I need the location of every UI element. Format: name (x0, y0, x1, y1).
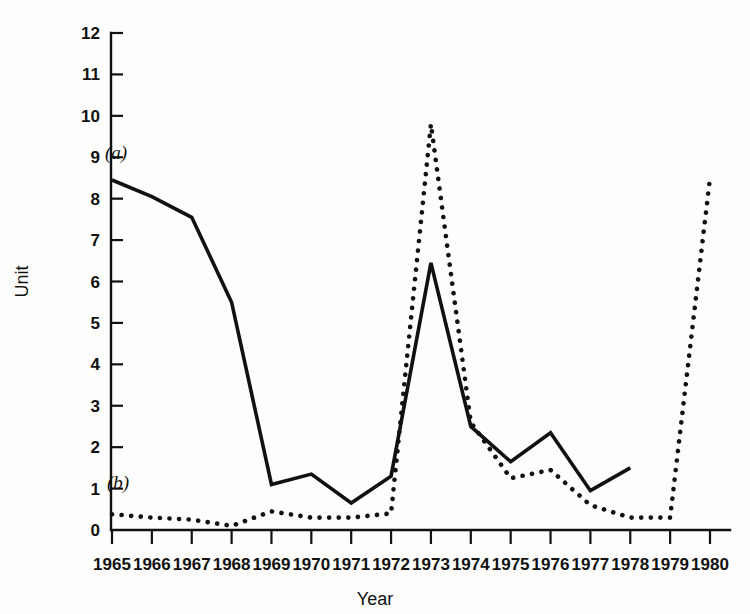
line-chart: 0123456789101112196519661967196819691970… (0, 0, 750, 614)
series-annotation-a: (a) (105, 142, 127, 164)
y-axis-tick-label: 6 (91, 273, 100, 292)
y-axis-tick-label: 12 (81, 24, 100, 43)
x-axis-tick-label: 1968 (213, 555, 251, 574)
y-axis-tick-label: 8 (91, 190, 100, 209)
x-axis-tick-label: 1969 (253, 555, 291, 574)
y-axis-title: Unit (12, 265, 32, 297)
series-annotation-b: (b) (107, 472, 129, 494)
x-axis-tick-label: 1975 (492, 555, 530, 574)
y-axis-tick-label: 3 (91, 397, 100, 416)
plot-area: 0123456789101112196519661967196819691970… (12, 24, 730, 609)
x-axis-tick-label: 1973 (412, 555, 450, 574)
axis-spines (111, 33, 730, 530)
x-axis-tick-label: 1976 (532, 555, 570, 574)
y-axis-tick-label: 9 (91, 148, 100, 167)
series-line-a (112, 180, 630, 503)
x-axis-tick-label: 1977 (571, 555, 609, 574)
x-axis-tick-label: 1980 (691, 555, 729, 574)
y-axis-tick-label: 4 (91, 355, 101, 374)
x-axis-tick-label: 1974 (452, 555, 490, 574)
x-axis-tick-label: 1970 (292, 555, 330, 574)
x-axis-tick-label: 1978 (611, 555, 649, 574)
x-axis-tick-label: 1966 (133, 555, 171, 574)
chart-figure: 0123456789101112196519661967196819691970… (0, 0, 750, 614)
y-axis-tick-label: 0 (91, 521, 100, 540)
y-axis-tick-label: 7 (91, 231, 100, 250)
x-axis-tick-label: 1965 (93, 555, 131, 574)
x-axis-tick-label: 1967 (173, 555, 211, 574)
x-axis-title: Year (357, 589, 393, 609)
y-axis-tick-label: 5 (91, 314, 100, 333)
x-axis-tick-label: 1979 (651, 555, 689, 574)
y-axis-tick-label: 1 (91, 480, 100, 499)
series-line-b (112, 124, 710, 526)
y-axis-tick-label: 11 (82, 65, 100, 84)
x-axis-tick-label: 1971 (332, 555, 370, 574)
y-axis-tick-label: 2 (91, 438, 100, 457)
y-axis-tick-label: 10 (81, 107, 100, 126)
x-axis-tick-label: 1972 (372, 555, 410, 574)
